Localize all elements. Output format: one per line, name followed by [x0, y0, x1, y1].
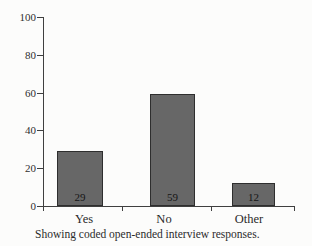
y-axis-tick-label: 100 [8, 10, 36, 24]
x-axis-tick [294, 207, 295, 211]
bar-value-label: 12 [233, 191, 274, 203]
x-axis-tick [122, 207, 123, 211]
bar-yes: 29 [57, 151, 103, 206]
y-axis-tick [37, 168, 43, 169]
y-axis-tick [37, 55, 43, 56]
y-axis-tick [37, 93, 43, 94]
x-category-label: Other [219, 212, 279, 227]
bar-value-label: 59 [151, 191, 194, 203]
bar-value-label: 29 [58, 191, 102, 203]
x-category-label: No [134, 212, 194, 227]
y-axis-tick [37, 17, 43, 18]
y-axis-tick [37, 206, 43, 207]
x-category-label: Yes [54, 212, 114, 227]
y-axis-tick-label: 60 [8, 86, 36, 100]
x-axis-line [43, 206, 295, 207]
x-axis-tick [211, 207, 212, 211]
y-axis-line [43, 17, 44, 211]
bar-other: 12 [232, 183, 275, 206]
bar-chart-figure: 02040608010029Yes59No12Other Showing cod… [0, 0, 312, 246]
y-axis-tick-label: 40 [8, 123, 36, 137]
y-axis-tick-label: 80 [8, 48, 36, 62]
bar-no: 59 [150, 94, 195, 206]
y-axis-tick-label: 0 [8, 199, 36, 213]
y-axis-tick-label: 20 [8, 161, 36, 175]
y-axis-tick [37, 130, 43, 131]
figure-caption: Showing coded open-ended interview respo… [35, 228, 260, 240]
